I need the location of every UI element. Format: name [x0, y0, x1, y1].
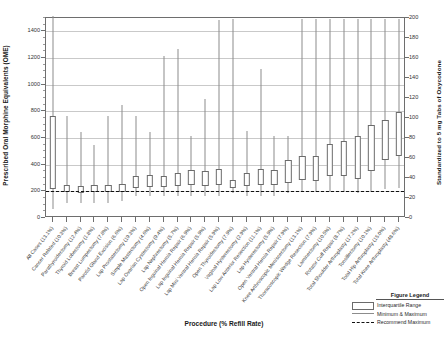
x-axis-tickmark: [149, 217, 150, 222]
y-axis-right-tick-label: 0: [409, 214, 431, 220]
boxplot: [323, 16, 337, 216]
y-axis-left-title-text: Prescribed Oral Morphine Equivalents (OM…: [2, 45, 9, 186]
boxplot-iqr-box: [216, 169, 222, 185]
boxplot: [88, 16, 102, 216]
figure-legend: Figure Legend Interquartile RangeMinimum…: [352, 292, 444, 326]
boxplot: [198, 16, 212, 216]
boxplot: [74, 16, 88, 216]
boxplot-iqr-box: [202, 171, 208, 186]
x-axis-tickmark: [177, 217, 178, 222]
y-axis-left-title: Prescribed Oral Morphine Equivalents (OM…: [0, 0, 12, 230]
boxplot: [309, 16, 323, 216]
boxplot-whisker: [191, 136, 192, 196]
x-axis-tickmark: [93, 217, 94, 222]
y-axis-right-tick-label: 160: [409, 54, 431, 60]
boxplot: [364, 16, 378, 216]
boxplot-iqr-box: [161, 176, 167, 187]
boxplot-series: [46, 18, 404, 216]
boxplot-iqr-box: [50, 116, 56, 189]
x-axis-tickmark: [190, 217, 191, 222]
legend-swatch-reco: [352, 322, 374, 323]
legend-label: Minimum & Maximum: [377, 311, 427, 317]
y-axis-right-tick-label: 180: [409, 34, 431, 40]
boxplot: [337, 16, 351, 216]
legend-rows: Interquartile RangeMinimum & MaximumReco…: [352, 302, 444, 326]
boxplot-iqr-box: [341, 141, 347, 176]
x-axis-tickmark: [204, 217, 205, 222]
boxplot-iqr-box: [147, 175, 153, 187]
legend-title: Figure Legend: [376, 292, 444, 300]
y-axis-left-tick-label: 800: [14, 107, 40, 113]
y-axis-right-tick-label: 120: [409, 94, 431, 100]
legend-item: Interquartile Range: [352, 302, 444, 309]
boxplot-iqr-box: [271, 170, 277, 185]
boxplot: [240, 16, 254, 216]
boxplot: [392, 16, 406, 216]
legend-item: Minimum & Maximum: [352, 310, 444, 317]
boxplot: [226, 16, 240, 216]
y-axis-right-tick-label: 80: [409, 134, 431, 140]
y-axis-right-title: Standardized to 5 mg Tabs of Oxycodone: [432, 10, 446, 235]
boxplot-iqr-box: [133, 176, 139, 188]
boxplot-iqr-box: [368, 125, 374, 170]
y-axis-right-tick-label: 100: [409, 114, 431, 120]
figure-root: Prescribed Oral Morphine Equivalents (OM…: [0, 0, 448, 343]
boxplot-whisker: [163, 56, 164, 196]
legend-swatch-minmax: [352, 313, 374, 314]
legend-key: [352, 310, 374, 317]
y-axis-right-tickmark: [405, 217, 409, 218]
boxplot: [129, 16, 143, 216]
boxplot-iqr-box: [257, 169, 263, 185]
y-axis-right-title-text: Standardized to 5 mg Tabs of Oxycodone: [436, 60, 443, 185]
x-axis-tickmark: [315, 217, 316, 222]
boxplot-iqr-box: [244, 173, 250, 186]
boxplot: [143, 16, 157, 216]
x-axis-tickmark: [135, 217, 136, 222]
boxplot-iqr-box: [396, 112, 402, 156]
plot-area: [45, 17, 405, 217]
legend-key: [352, 319, 374, 326]
boxplot-iqr-box: [188, 170, 194, 185]
y-axis-right-tick-label: 20: [409, 194, 431, 200]
boxplot-whisker: [94, 145, 95, 202]
boxplot: [115, 16, 129, 216]
y-axis-left-tick-label: 1200: [14, 54, 40, 60]
legend-label: Recommend Maximum: [377, 319, 430, 325]
boxplot: [378, 16, 392, 216]
x-axis-tickmark: [343, 217, 344, 222]
boxplot-whisker: [399, 19, 400, 188]
x-axis-tickmark: [329, 217, 330, 222]
x-axis-tickmark: [218, 217, 219, 222]
x-axis-tickmark: [398, 217, 399, 222]
boxplot-iqr-box: [354, 136, 360, 179]
x-axis-tickmark: [80, 217, 81, 222]
y-axis-left-tick-label: 1000: [14, 81, 40, 87]
y-axis-right-tick-label: 60: [409, 154, 431, 160]
x-axis-tickmark: [107, 217, 108, 222]
x-axis-tickmark: [246, 217, 247, 222]
x-axis-tickmark: [163, 217, 164, 222]
y-axis-left-tick-label: 200: [14, 187, 40, 193]
x-axis-tickmark: [301, 217, 302, 222]
boxplot: [281, 16, 295, 216]
boxplot-iqr-box: [299, 156, 305, 180]
recommended-maximum-line: [46, 191, 404, 192]
boxplot: [351, 16, 365, 216]
y-axis-left-tick-label: 400: [14, 161, 40, 167]
boxplot-whisker: [274, 136, 275, 196]
boxplot: [254, 16, 268, 216]
boxplot-iqr-box: [327, 144, 333, 176]
y-axis-left-tick-label: 0: [14, 214, 40, 220]
legend-label: Interquartile Range: [377, 302, 421, 308]
legend-swatch-iqr: [352, 302, 374, 310]
y-axis-right-tick-label: 40: [409, 174, 431, 180]
x-axis-tickmark: [52, 217, 53, 222]
boxplot-iqr-box: [382, 120, 388, 160]
boxplot-iqr-box: [313, 156, 319, 181]
x-axis-tickmark: [370, 217, 371, 222]
y-axis-right-tick-label: 200: [409, 14, 431, 20]
boxplot: [295, 16, 309, 216]
boxplot: [46, 16, 60, 216]
x-axis-tickmark: [121, 217, 122, 222]
boxplot-iqr-box: [285, 160, 291, 183]
